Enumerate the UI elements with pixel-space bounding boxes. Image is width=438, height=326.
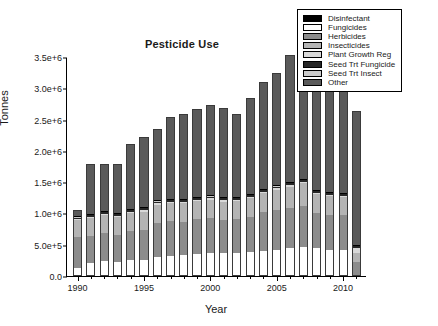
x-tick-minor <box>290 276 291 279</box>
bar-1994[interactable] <box>126 57 135 276</box>
bar-segment <box>192 200 201 201</box>
bar-segment <box>259 193 268 212</box>
bar-segment <box>73 268 82 276</box>
bar-segment <box>325 196 334 215</box>
bar-1995[interactable] <box>139 57 148 276</box>
bar-1993[interactable] <box>113 57 122 276</box>
bar-segment <box>192 201 201 219</box>
legend-item[interactable]: Fungicides <box>303 23 395 32</box>
bar-segment <box>232 201 241 219</box>
bar-1999[interactable] <box>192 57 201 276</box>
bar-2003[interactable] <box>246 57 255 276</box>
bar-segment <box>232 219 241 253</box>
bar-segment <box>206 253 215 276</box>
bar-segment <box>113 164 122 213</box>
bar-2004[interactable] <box>259 57 268 276</box>
bar-segment <box>179 255 188 276</box>
legend-swatch-icon <box>303 33 322 40</box>
bar-segment <box>100 164 109 212</box>
bar-segment <box>246 194 255 195</box>
bar-2002[interactable] <box>232 57 241 276</box>
x-tick-minor <box>263 276 264 279</box>
bar-segment <box>139 230 148 260</box>
bar-1998[interactable] <box>179 57 188 276</box>
y-tick-mark <box>63 277 67 278</box>
bar-segment <box>299 206 308 247</box>
y-tick-label: 2.5e+6 <box>34 116 62 126</box>
bar-segment <box>126 213 135 231</box>
bar-segment <box>166 199 175 200</box>
bar-2000[interactable] <box>206 57 215 276</box>
bar-segment <box>299 247 308 276</box>
bar-segment <box>113 216 122 217</box>
legend-item[interactable]: Insecticides <box>303 41 395 50</box>
legend-label: Seed Trt Insect <box>328 69 382 78</box>
bar-segment <box>73 219 82 220</box>
bar-segment <box>259 251 268 276</box>
bar-segment <box>259 82 268 188</box>
x-tick-minor <box>117 276 118 279</box>
legend-item[interactable]: Seed Trt Fungicide <box>303 59 395 68</box>
bar-segment <box>113 262 122 276</box>
bar-1997[interactable] <box>166 57 175 276</box>
bar-segment <box>153 223 162 257</box>
y-tick-label: 3.0e+6 <box>34 84 62 94</box>
bar-segment <box>113 217 122 235</box>
legend-item[interactable]: Seed Trt Insect <box>303 69 395 78</box>
bar-segment <box>352 262 361 276</box>
bar-2001[interactable] <box>219 57 228 276</box>
legend-swatch-icon <box>303 61 322 68</box>
x-tick-minor <box>157 276 158 279</box>
bar-segment <box>100 233 109 261</box>
legend-item[interactable]: Plant Growth Reg <box>303 50 395 59</box>
bar-1990[interactable] <box>73 57 82 276</box>
legend-item[interactable]: Disinfectant <box>303 14 395 23</box>
legend-label: Insecticides <box>328 41 370 50</box>
bar-segment <box>100 214 109 215</box>
bar-segment <box>219 253 228 276</box>
bar-segment <box>139 260 148 276</box>
legend-swatch-icon <box>303 24 322 31</box>
bar-1996[interactable] <box>153 57 162 276</box>
legend-label: Seed Trt Fungicide <box>328 60 395 69</box>
bar-segment <box>339 215 348 250</box>
bar-segment <box>86 164 95 215</box>
bar-segment <box>179 199 188 200</box>
bar-segment <box>73 216 82 217</box>
x-tick-major <box>343 276 344 281</box>
bar-segment <box>285 182 294 183</box>
bar-segment <box>325 250 334 276</box>
bar-segment <box>153 200 162 201</box>
bar-segment <box>139 207 148 208</box>
bar-segment <box>86 218 95 236</box>
x-tick-minor <box>104 276 105 279</box>
bar-1991[interactable] <box>86 57 95 276</box>
bar-2006[interactable] <box>285 57 294 276</box>
x-axis-label: Year <box>66 303 366 315</box>
bar-segment <box>86 214 95 215</box>
chart-title: Pesticide Use <box>66 38 298 50</box>
bar-segment <box>312 193 321 194</box>
bar-segment <box>272 185 281 186</box>
bar-segment <box>232 114 241 197</box>
bar-segment <box>246 198 255 217</box>
bar-segment <box>312 190 321 191</box>
bar-segment <box>259 212 268 251</box>
bar-segment <box>219 202 228 221</box>
x-tick-label: 2000 <box>200 283 220 293</box>
x-tick-minor <box>197 276 198 279</box>
legend-item[interactable]: Other <box>303 78 395 87</box>
bar-segment <box>86 236 95 263</box>
bar-1992[interactable] <box>100 57 109 276</box>
bar-2005[interactable] <box>272 57 281 276</box>
bar-segment <box>192 219 201 254</box>
bar-segment <box>166 256 175 276</box>
pesticide-use-chart: Pesticide Use Tonnes Year 0.05.0e+51.0e+… <box>0 0 438 326</box>
x-tick-label: 1990 <box>68 283 88 293</box>
bar-segment <box>312 194 321 213</box>
bar-segment <box>285 187 294 208</box>
bar-segment <box>339 88 348 192</box>
bar-segment <box>232 197 241 198</box>
legend-item[interactable]: Herbicides <box>303 32 395 41</box>
bar-segment <box>246 197 255 198</box>
